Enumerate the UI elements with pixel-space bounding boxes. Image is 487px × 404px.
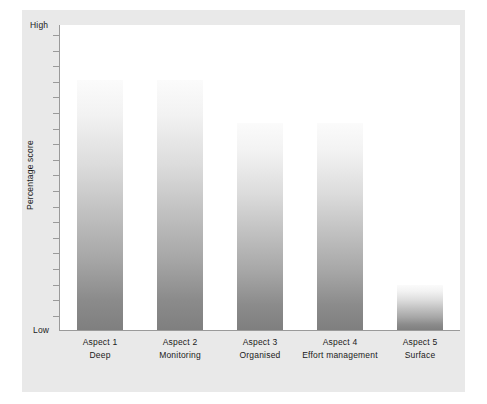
x-axis-label-category: Aspect 3 — [243, 337, 278, 347]
x-axis-label-sublabel: Surface — [380, 349, 460, 362]
y-axis-tick — [53, 175, 59, 176]
bar-1 — [77, 80, 123, 330]
y-axis-tick — [53, 222, 59, 223]
bar-3 — [237, 123, 283, 330]
y-axis-tick — [53, 191, 59, 192]
y-axis-tick — [53, 316, 59, 317]
y-axis-tick — [53, 253, 59, 254]
x-axis-label-2: Aspect 2Monitoring — [140, 336, 220, 361]
x-axis-label-5: Aspect 5Surface — [380, 336, 460, 361]
y-axis-tick — [53, 207, 59, 208]
y-axis-tick — [53, 51, 59, 52]
x-axis-label-sublabel: Monitoring — [140, 349, 220, 362]
x-axis-label-category: Aspect 2 — [163, 337, 198, 347]
y-axis-tick — [53, 300, 59, 301]
y-axis-tick — [53, 97, 59, 98]
x-axis-label-category: Aspect 5 — [403, 337, 438, 347]
bar-chart: High Low Percentage score Aspect 1DeepAs… — [0, 0, 487, 404]
x-axis-line — [59, 330, 460, 331]
x-axis-labels: Aspect 1DeepAspect 2MonitoringAspect 3Or… — [60, 336, 460, 386]
bar-5 — [397, 285, 443, 330]
y-axis-tick — [53, 269, 59, 270]
y-axis-low-label: Low — [33, 325, 49, 335]
x-axis-label-sublabel: Organised — [220, 349, 300, 362]
y-axis-tick — [53, 35, 59, 36]
y-axis-tick — [53, 238, 59, 239]
y-axis-title: Percentage score — [25, 120, 35, 230]
x-axis-label-3: Aspect 3Organised — [220, 336, 300, 361]
y-axis-tick — [53, 285, 59, 286]
x-axis-label-category: Aspect 1 — [83, 337, 118, 347]
x-axis-label-4: Aspect 4Effort management — [300, 336, 380, 361]
y-axis-tick — [53, 66, 59, 67]
x-axis-label-category: Aspect 4 — [323, 337, 358, 347]
y-axis-tick — [53, 113, 59, 114]
x-axis-label-sublabel: Deep — [60, 349, 140, 362]
y-axis-tick — [53, 144, 59, 145]
x-axis-label-1: Aspect 1Deep — [60, 336, 140, 361]
x-axis-label-sublabel: Effort management — [300, 349, 380, 362]
y-axis-tick — [53, 160, 59, 161]
bar-series — [60, 25, 460, 330]
bar-4 — [317, 123, 363, 330]
y-axis-high-label: High — [30, 20, 48, 30]
y-axis-tick — [53, 129, 59, 130]
y-axis-tick — [53, 82, 59, 83]
bar-2 — [157, 80, 203, 330]
